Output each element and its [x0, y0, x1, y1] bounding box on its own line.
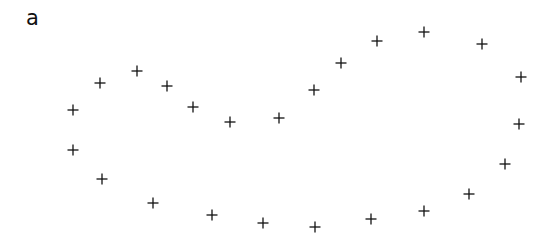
plus-marker	[258, 218, 269, 229]
plus-marker	[225, 117, 236, 128]
plus-marker	[516, 72, 527, 83]
plus-marker	[132, 66, 143, 77]
plus-marker	[95, 78, 106, 89]
plus-marker	[336, 58, 347, 69]
plus-marker	[68, 145, 79, 156]
plus-marker	[310, 222, 321, 233]
plus-marker	[188, 102, 199, 113]
plus-marker	[274, 113, 285, 124]
plus-marker	[419, 206, 430, 217]
point-cloud-plot	[0, 0, 553, 240]
plus-marker	[372, 36, 383, 47]
plus-marker	[97, 174, 108, 185]
plus-marker	[148, 198, 159, 209]
plus-marker	[309, 85, 320, 96]
plus-marker	[514, 119, 525, 130]
plus-marker	[477, 39, 488, 50]
plus-marker	[366, 214, 377, 225]
plus-marker	[162, 81, 173, 92]
plus-marker	[419, 27, 430, 38]
plus-marker	[500, 159, 511, 170]
plus-marker	[68, 105, 79, 116]
plus-marker	[207, 210, 218, 221]
plus-marker	[464, 189, 475, 200]
